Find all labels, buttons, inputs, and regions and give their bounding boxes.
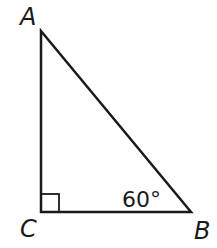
right-angle-marker — [41, 194, 59, 212]
triangle-abc — [41, 31, 191, 212]
triangle-diagram: A C B 60° — [0, 0, 217, 248]
vertex-label-a: A — [18, 3, 36, 31]
vertex-label-b: B — [194, 217, 210, 245]
vertex-label-c: C — [20, 215, 37, 243]
angle-b-label: 60° — [122, 187, 161, 212]
